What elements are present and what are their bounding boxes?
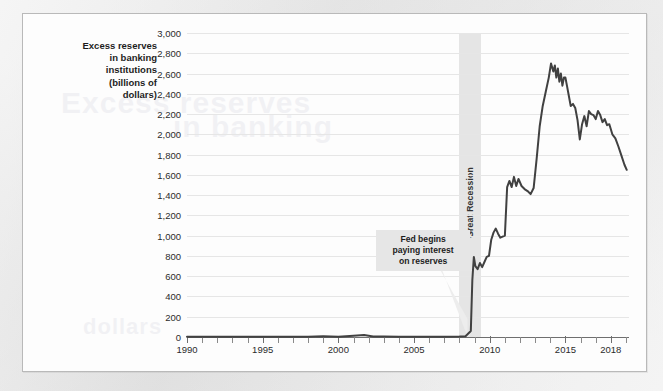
y-axis-tick-label: 1,400 — [141, 190, 181, 201]
x-axis-tick — [232, 337, 233, 343]
x-axis-tick — [611, 336, 612, 343]
x-axis-tick — [248, 337, 249, 343]
x-axis-tick — [520, 337, 521, 343]
x-axis-tick — [505, 337, 506, 343]
x-axis-tick — [444, 337, 445, 343]
y-axis-tick-label: 0 — [141, 332, 181, 343]
y-axis-tick-label: 2,800 — [141, 48, 181, 59]
x-axis-tick — [596, 337, 597, 343]
y-axis-tick-label: 1,800 — [141, 149, 181, 160]
x-axis-tick — [217, 337, 218, 343]
x-axis-tick-label: 2000 — [328, 344, 349, 355]
chart: Excess reserves in banking institutions … — [23, 14, 646, 371]
y-axis-tick-label: 2,000 — [141, 129, 181, 140]
x-axis-tick — [535, 337, 536, 343]
y-axis-tick-label: 2,600 — [141, 68, 181, 79]
y-axis-tick-label: 1,600 — [141, 169, 181, 180]
x-axis-tick — [354, 337, 355, 343]
x-axis-tick — [565, 336, 566, 343]
plot-area: Great Recession02004006008001,0001,2001,… — [187, 33, 629, 337]
y-axis-tick-label: 600 — [141, 271, 181, 282]
y-axis-tick-label: 200 — [141, 311, 181, 322]
x-axis-tick-label: 1990 — [176, 344, 197, 355]
x-axis-tick — [550, 337, 551, 343]
x-axis-tick — [202, 337, 203, 343]
x-axis-tick-label: 2018 — [600, 344, 621, 355]
x-axis-tick-label: 2015 — [555, 344, 576, 355]
x-axis-tick — [323, 337, 324, 343]
y-axis-tick-label: 2,200 — [141, 109, 181, 120]
y-axis-tick-label: 1,000 — [141, 230, 181, 241]
y-axis-tick-label: 2,400 — [141, 88, 181, 99]
y-axis-tick-label: 800 — [141, 250, 181, 261]
x-axis-tick — [581, 337, 582, 343]
x-axis-tick — [308, 337, 309, 343]
x-axis-tick — [293, 337, 294, 343]
y-axis-tick-label: 400 — [141, 291, 181, 302]
series-excess-reserves — [187, 33, 629, 337]
y-axis-tick-label: 3,000 — [141, 28, 181, 39]
x-axis-tick — [475, 337, 476, 343]
x-axis-tick — [626, 337, 627, 343]
x-axis-tick — [429, 337, 430, 343]
x-axis-tick — [459, 337, 460, 343]
x-axis-tick-label: 2005 — [403, 344, 424, 355]
x-axis-tick — [399, 337, 400, 343]
x-axis-tick — [369, 337, 370, 343]
figure-card: Excess reserves in banking dollars Exces… — [22, 13, 647, 372]
x-axis-tick — [490, 336, 491, 343]
y-axis-tick-label: 1,200 — [141, 210, 181, 221]
x-axis-tick — [278, 337, 279, 343]
x-axis-tick-label: 1995 — [252, 344, 273, 355]
x-axis-tick — [384, 337, 385, 343]
x-axis-tick-label: 2010 — [479, 344, 500, 355]
annotation-fed-interest-on-reserves: Fed begins paying interest on reserves — [376, 230, 470, 271]
